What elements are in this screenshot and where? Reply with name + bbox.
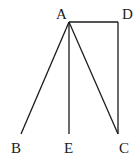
segment-AC	[69, 22, 118, 134]
label-B: B	[11, 140, 21, 156]
label-D: D	[122, 6, 133, 22]
geometry-diagram: A D B E C	[0, 0, 139, 160]
label-C: C	[119, 140, 129, 156]
label-A: A	[56, 6, 67, 22]
label-E: E	[64, 140, 73, 156]
segment-AB	[21, 22, 69, 134]
